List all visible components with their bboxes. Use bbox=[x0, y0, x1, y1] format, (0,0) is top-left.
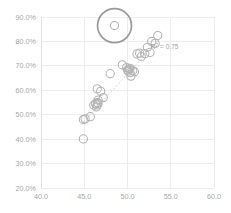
y-axis-tick-label: 40.0% bbox=[16, 135, 37, 144]
highlight-ring bbox=[98, 9, 132, 43]
x-axis-tick-label: 50.0 bbox=[121, 192, 135, 201]
x-axis-tick-label: 40.0 bbox=[34, 192, 48, 201]
y-axis-tick-label: 50.0% bbox=[16, 110, 37, 119]
chart-canvas: 20.0%30.0%40.0%50.0%60.0%70.0%80.0%90.0%… bbox=[0, 0, 231, 213]
y-axis-tick-label: 80.0% bbox=[16, 37, 37, 46]
y-axis-tick-label: 90.0% bbox=[16, 13, 37, 22]
x-axis-tick-labels: 40.045.050.055.060.0 bbox=[34, 192, 221, 201]
x-axis-tick-label: 45.0 bbox=[77, 192, 91, 201]
r-squared-annotation: R2 = 0.75 bbox=[151, 42, 179, 50]
trendline bbox=[83, 40, 158, 122]
trendline-path bbox=[83, 40, 158, 122]
y-axis-tick-label: 70.0% bbox=[16, 61, 37, 70]
x-axis-tick-label: 55.0 bbox=[164, 192, 178, 201]
axis-lines bbox=[41, 17, 214, 188]
data-points bbox=[79, 21, 162, 143]
x-axis-tick-label: 60.0 bbox=[207, 192, 221, 201]
y-axis-tick-label: 30.0% bbox=[16, 159, 37, 168]
scatter-chart: 20.0%30.0%40.0%50.0%60.0%70.0%80.0%90.0%… bbox=[0, 0, 231, 213]
data-point-marker bbox=[106, 70, 114, 78]
data-point-marker bbox=[110, 21, 118, 29]
y-axis-tick-labels: 20.0%30.0%40.0%50.0%60.0%70.0%80.0%90.0% bbox=[16, 13, 37, 193]
y-axis-tick-label: 60.0% bbox=[16, 86, 37, 95]
data-point-marker bbox=[154, 31, 162, 39]
r-squared-label: R2 = 0.75 bbox=[151, 42, 179, 50]
outlier-highlight-ring bbox=[98, 9, 132, 43]
data-point-marker bbox=[86, 113, 94, 121]
